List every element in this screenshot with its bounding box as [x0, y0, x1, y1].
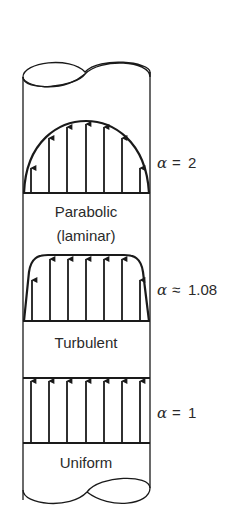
parabolic-profile: [23, 121, 150, 193]
svg-text:α: α: [157, 404, 167, 422]
svg-text:2: 2: [188, 154, 196, 171]
label-turbulent: Turbulent: [55, 334, 119, 351]
alpha-turbulent: α ≈ 1.08: [157, 281, 217, 299]
svg-text:≈: ≈: [172, 281, 180, 298]
label-laminar: (laminar): [56, 227, 115, 244]
svg-text:α: α: [157, 154, 167, 172]
label-parabolic: Parabolic: [55, 203, 118, 220]
alpha-parabolic: α = 2: [157, 154, 196, 172]
svg-text:α: α: [157, 281, 167, 299]
uniform-profile: [23, 378, 150, 443]
velocity-profile-diagram: Parabolic (laminar) Turbulent Uniform α …: [0, 0, 237, 530]
svg-text:1.08: 1.08: [188, 281, 217, 298]
svg-text:=: =: [172, 154, 181, 171]
pipe-top-cap: [23, 62, 150, 86]
turbulent-profile: [23, 255, 150, 321]
pipe-bottom-cap: [23, 478, 150, 503]
svg-text:=: =: [172, 404, 181, 421]
svg-text:1: 1: [188, 404, 196, 421]
label-uniform: Uniform: [60, 454, 113, 471]
alpha-uniform: α = 1: [157, 404, 196, 422]
